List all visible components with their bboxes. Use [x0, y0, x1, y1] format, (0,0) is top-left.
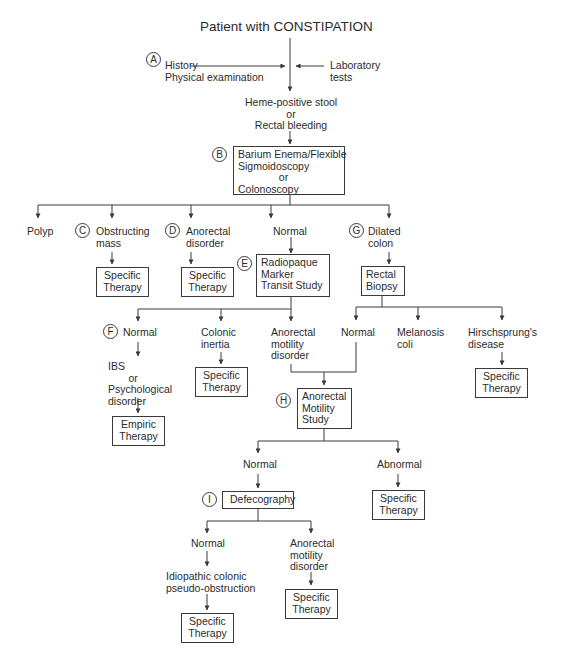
- rectal-biopsy-box: Rectal Biopsy: [361, 266, 405, 296]
- laboratory-tests-label: Laboratory tests: [330, 60, 380, 83]
- step-marker-h: H: [276, 393, 291, 408]
- normal-transit-label: Normal: [123, 327, 157, 339]
- flowchart-title: Patient with CONSTIPATION: [200, 19, 373, 34]
- obstructing-mass-label: Obstructing mass: [96, 226, 150, 249]
- normal-barium-label: Normal: [273, 226, 307, 238]
- idiopathic-pseudo-obstruction-label: Idiopathic colonic pseudo-obstruction: [166, 571, 255, 594]
- ibs-label: IBS or Psychological disorder: [108, 361, 172, 407]
- specific-therapy-hirschsprung-box: Specific Therapy: [475, 368, 528, 398]
- specific-therapy-obstructing-box: Specific Therapy: [96, 267, 149, 297]
- step-marker-a: A: [146, 52, 161, 67]
- motility-abnormal-label: Abnormal: [377, 459, 422, 471]
- step-marker-c: C: [75, 223, 90, 238]
- constipation-flowchart: Patient with CONSTIPATION A History Phys…: [0, 0, 561, 670]
- anorectal-motility-disorder-label: Anorectal motility disorder: [271, 327, 315, 362]
- step-marker-g: G: [349, 223, 364, 238]
- dilated-colon-label: Dilated colon: [368, 226, 401, 249]
- defecography-normal-label: Normal: [191, 538, 225, 550]
- anorectal-motility-study-box: Anorectal Motility Study: [297, 388, 352, 429]
- empiric-therapy-box: Empiric Therapy: [112, 416, 165, 446]
- anorectal-motility-disorder-2-label: Anorectal motility disorder: [290, 538, 334, 573]
- step-marker-e: E: [237, 256, 252, 271]
- step-marker-i: I: [202, 492, 217, 507]
- barium-enema-box: Barium Enema/Flexible Sigmoidoscopy or C…: [233, 146, 345, 195]
- polyp-label: Polyp: [27, 226, 53, 238]
- motility-normal-label: Normal: [243, 459, 277, 471]
- step-marker-d: D: [165, 223, 180, 238]
- anorectal-disorder-label: Anorectal disorder: [186, 226, 230, 249]
- biopsy-normal-label: Normal: [341, 327, 375, 339]
- specific-therapy-anorectal-box: Specific Therapy: [181, 267, 234, 297]
- history-exam-label: History Physical examination: [165, 60, 264, 83]
- colonic-inertia-label: Colonic inertia: [201, 327, 236, 350]
- radiopaque-marker-box: Radiopaque Marker Transit Study: [256, 254, 330, 297]
- specific-therapy-idiopathic-box: Specific Therapy: [181, 613, 234, 643]
- step-marker-b: B: [212, 147, 227, 162]
- step-marker-f: F: [103, 324, 118, 339]
- hirschsprung-label: Hirschsprung's disease: [468, 327, 537, 350]
- melanosis-coli-label: Melanosis coli: [397, 327, 444, 350]
- specific-therapy-colonic-box: Specific Therapy: [195, 367, 248, 397]
- specific-therapy-anorectal-motility-box: Specific Therapy: [285, 589, 338, 619]
- specific-therapy-abnormal-box: Specific Therapy: [372, 490, 425, 520]
- defecography-box: Defecography: [222, 491, 294, 509]
- heme-positive-label: Heme-positive stool or Rectal bleeding: [245, 97, 337, 132]
